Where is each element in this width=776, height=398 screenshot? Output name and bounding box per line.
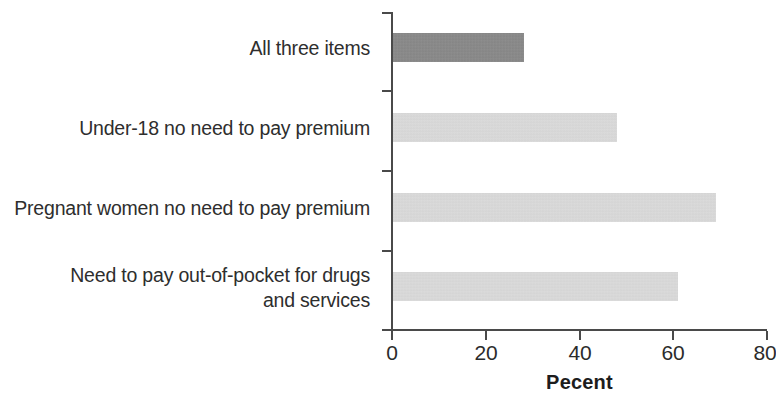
x-tick-label-0: 0 bbox=[386, 341, 397, 365]
y-axis-tick bbox=[382, 170, 392, 172]
bar-under-18-no-premium bbox=[393, 113, 617, 142]
x-axis-tick bbox=[579, 331, 581, 340]
y-axis-tick bbox=[382, 90, 392, 92]
y-axis-tick bbox=[382, 12, 392, 14]
x-axis-tick bbox=[391, 331, 393, 340]
x-tick-label-20: 20 bbox=[475, 341, 498, 365]
category-label-pregnant-women-no-premium: Pregnant women no need to pay premium bbox=[0, 196, 380, 221]
x-tick-label-60: 60 bbox=[662, 341, 685, 365]
x-axis-tick bbox=[485, 331, 487, 340]
bar-all-three-items bbox=[393, 33, 524, 62]
bar-out-of-pocket-drugs-services bbox=[393, 272, 678, 301]
category-label-all-three-items: All three items bbox=[0, 36, 380, 61]
x-axis-tick bbox=[766, 331, 768, 340]
x-tick-label-80: 80 bbox=[754, 341, 776, 365]
x-axis-title: Pecent bbox=[392, 371, 767, 394]
x-tick-label-40: 40 bbox=[569, 341, 592, 365]
category-label-out-of-pocket-drugs-services: Need to pay out-of-pocket for drugs and … bbox=[0, 263, 380, 313]
bar-pregnant-women-no-premium bbox=[393, 193, 716, 222]
x-axis-tick bbox=[672, 331, 674, 340]
category-label-under-18-no-premium: Under-18 no need to pay premium bbox=[0, 116, 380, 141]
bar-chart: All three items Under-18 no need to pay … bbox=[0, 0, 776, 398]
y-axis-tick bbox=[382, 250, 392, 252]
